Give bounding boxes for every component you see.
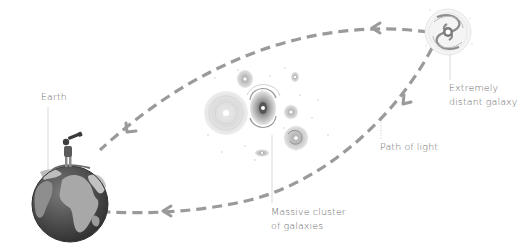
distant-galaxy-label: Extremely distant galaxy bbox=[449, 81, 518, 109]
path-of-light-label: Path of light bbox=[380, 140, 438, 154]
distant-galaxy-label-line1: Extremely bbox=[449, 81, 518, 95]
earth-globe-icon bbox=[32, 166, 108, 242]
diagram-canvas bbox=[0, 0, 532, 252]
galaxy-cluster-label: Massive cluster of galaxies bbox=[271, 205, 346, 233]
person-with-telescope-icon bbox=[52, 131, 90, 170]
galaxy-cluster-icon bbox=[204, 67, 329, 161]
distant-galaxy-label-line2: distant galaxy bbox=[449, 95, 518, 109]
galaxy-cluster-label-line1: Massive cluster bbox=[271, 205, 346, 219]
spiral-galaxy-icon bbox=[425, 9, 473, 55]
earth-label: Earth bbox=[41, 90, 67, 104]
path-of-light-label-text: Path of light bbox=[380, 140, 438, 154]
earth-label-text: Earth bbox=[41, 90, 67, 104]
lower-light-path bbox=[107, 48, 432, 213]
arrow-icon bbox=[403, 95, 411, 104]
gravitational-lensing-diagram: Earth Extremely distant galaxy Path of l… bbox=[0, 0, 532, 252]
upper-light-path bbox=[100, 29, 428, 150]
galaxy-cluster-label-line2: of galaxies bbox=[271, 219, 346, 233]
